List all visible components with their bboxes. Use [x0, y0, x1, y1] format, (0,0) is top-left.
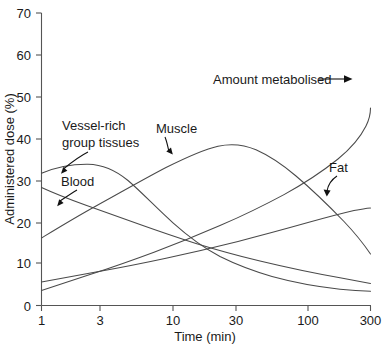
- arrowhead-vessel-rich: [61, 167, 67, 174]
- curve-blood: [42, 187, 371, 283]
- arrowhead-fat: [324, 190, 331, 197]
- x-axis-title: Time (min): [174, 329, 236, 344]
- y-tick-label-50: 50: [17, 90, 31, 105]
- curve-fat: [42, 208, 371, 282]
- annotation-muscle: Muscle: [156, 121, 197, 136]
- y-tick-label-70: 70: [17, 6, 31, 21]
- x-tick-label-100: 100: [297, 313, 319, 328]
- x-tick-label-300: 300: [360, 313, 382, 328]
- chart-figure: 70 60 50 40 30 20 10 0 1 3 10 30 100 300…: [0, 0, 383, 344]
- x-tick-label-30: 30: [229, 313, 243, 328]
- annotation-leader-fat: [324, 176, 337, 196]
- annotation-blood: Blood: [61, 174, 94, 189]
- y-tick-label-0: 0: [24, 299, 31, 314]
- arrowhead-blood: [57, 199, 63, 206]
- y-tick-label-60: 60: [17, 48, 31, 63]
- y-tick-label-40: 40: [17, 132, 31, 147]
- y-tick-label-10: 10: [17, 256, 31, 271]
- line-chart-canvas: 70 60 50 40 30 20 10 0 1 3 10 30 100 300…: [0, 0, 383, 344]
- y-tick-label-30: 30: [17, 174, 31, 189]
- x-tick-label-3: 3: [96, 313, 103, 328]
- x-tick-label-10: 10: [166, 313, 180, 328]
- y-axis: [36, 13, 42, 306]
- arrowhead-amount-metabolised: [344, 75, 353, 83]
- x-axis: [42, 306, 372, 312]
- x-tick-label-1: 1: [38, 313, 45, 328]
- annotation-amount-metabolised: Amount metabolised: [213, 72, 332, 87]
- annotation-leader-vessel-rich: [61, 152, 88, 174]
- y-axis-title: Administered dose (%): [2, 93, 17, 225]
- arrowhead-muscle: [166, 148, 173, 155]
- y-tick-label-20: 20: [17, 216, 31, 231]
- curve-muscle: [42, 145, 371, 254]
- annotation-vessel-rich-line2: group tissues: [62, 135, 140, 150]
- annotation-fat: Fat: [329, 160, 348, 175]
- annotation-leader-muscle: [165, 137, 173, 154]
- annotation-vessel-rich-line1: Vessel-rich: [62, 118, 126, 133]
